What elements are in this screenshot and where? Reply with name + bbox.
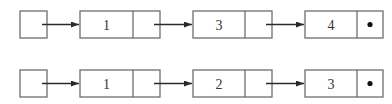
node: 3 xyxy=(193,11,272,38)
node: 1 xyxy=(80,11,160,38)
node-value: 3 xyxy=(328,77,335,92)
node: 3 xyxy=(305,70,383,97)
node-value: 1 xyxy=(103,18,110,33)
node-value: 1 xyxy=(103,77,110,92)
node: 1 xyxy=(80,70,160,97)
list-b: 1 2 3 xyxy=(20,70,383,97)
linked-lists-diagram: 1 3 4 1 2 xyxy=(0,0,392,104)
null-pointer-icon xyxy=(367,22,372,27)
node: 2 xyxy=(193,70,272,97)
node-value: 2 xyxy=(216,77,223,92)
null-pointer-icon xyxy=(367,81,372,86)
list-a: 1 3 4 xyxy=(20,11,383,38)
node-value: 4 xyxy=(328,18,335,33)
node: 4 xyxy=(305,11,383,38)
node-value: 3 xyxy=(216,18,223,33)
